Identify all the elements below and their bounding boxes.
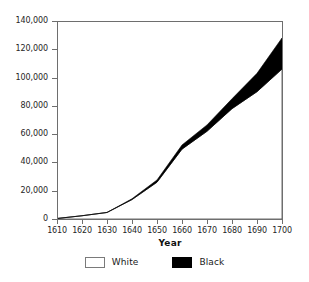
y-tick [52, 106, 58, 107]
black-swatch [172, 257, 192, 268]
x-tick-label: 1660 [169, 227, 195, 235]
y-tick-label: 20,000 [21, 187, 48, 195]
x-tick-label: 1670 [194, 227, 220, 235]
legend-label-black: Black [199, 258, 224, 267]
x-tick-label: 1640 [119, 227, 145, 235]
y-tick [52, 21, 58, 22]
plot-top-border [57, 21, 283, 22]
x-tick [257, 219, 258, 224]
y-tick [52, 191, 58, 192]
y-tick-label: 140,000 [16, 17, 48, 25]
y-tick-label: 100,000 [16, 74, 48, 82]
x-axis-line [57, 219, 283, 220]
population-area-chart: 020,00040,00060,00080,000100,000120,0001… [0, 0, 309, 282]
plot-right-border [282, 21, 283, 220]
legend-item-white[interactable]: White [85, 257, 139, 268]
x-tick-label: 1620 [69, 227, 95, 235]
y-tick-label: 60,000 [21, 130, 48, 138]
chart-legend: White Black [0, 257, 309, 268]
y-tick [52, 49, 58, 50]
x-tick [282, 219, 283, 224]
y-tick-label: 80,000 [21, 102, 48, 110]
y-tick [52, 162, 58, 163]
x-tick-label: 1650 [144, 227, 170, 235]
y-tick-label: 120,000 [16, 45, 48, 53]
x-tick-label: 1680 [219, 227, 245, 235]
legend-label-white: White [112, 258, 139, 267]
x-tick [57, 219, 58, 224]
x-tick-label: 1690 [244, 227, 270, 235]
y-tick-label: 40,000 [21, 158, 48, 166]
x-tick [107, 219, 108, 224]
chart-canvas [57, 21, 282, 219]
x-axis-title: Year [57, 238, 283, 248]
x-tick [232, 219, 233, 224]
x-tick [82, 219, 83, 224]
x-tick-label: 1610 [44, 227, 70, 235]
legend-item-black[interactable]: Black [172, 257, 224, 268]
x-tick [207, 219, 208, 224]
y-tick-label: 0 [43, 215, 48, 223]
x-tick-label: 1700 [269, 227, 295, 235]
white-swatch [85, 257, 105, 268]
x-tick [157, 219, 158, 224]
y-tick [52, 78, 58, 79]
plot-area [57, 21, 282, 219]
x-tick [132, 219, 133, 224]
x-tick-label: 1630 [94, 227, 120, 235]
x-tick [182, 219, 183, 224]
y-tick [52, 134, 58, 135]
